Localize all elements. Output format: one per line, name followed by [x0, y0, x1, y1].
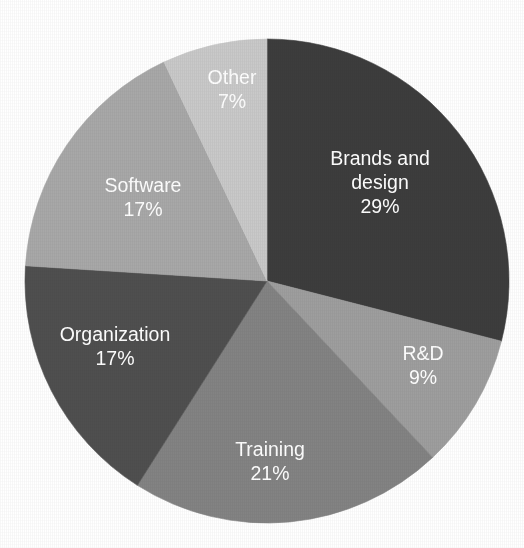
pie-slice-name-text: R&D: [402, 342, 443, 364]
pie-slice-name-text: Software: [105, 174, 182, 196]
pie-slice-percent-text: 7%: [218, 90, 246, 112]
pie-slice-percent-text: 17%: [95, 347, 134, 369]
pie-chart-figure: Brands anddesign29%R&D9%Training21%Organ…: [0, 0, 524, 548]
pie-slice-percent-text: 29%: [360, 195, 399, 217]
pie-slice-name-text: Organization: [60, 323, 171, 345]
pie-slice-name-text: design: [351, 171, 408, 193]
pie-slice-name-text: Brands and: [330, 147, 430, 169]
pie-slice-percent-text: 17%: [123, 198, 162, 220]
pie-slice-name-text: Other: [208, 66, 257, 88]
pie-chart-canvas: Brands anddesign29%R&D9%Training21%Organ…: [0, 0, 524, 548]
pie-slice-percent-text: 9%: [409, 366, 437, 388]
pie-slice-name-text: Training: [235, 438, 305, 460]
pie-slice-percent-text: 21%: [250, 462, 289, 484]
